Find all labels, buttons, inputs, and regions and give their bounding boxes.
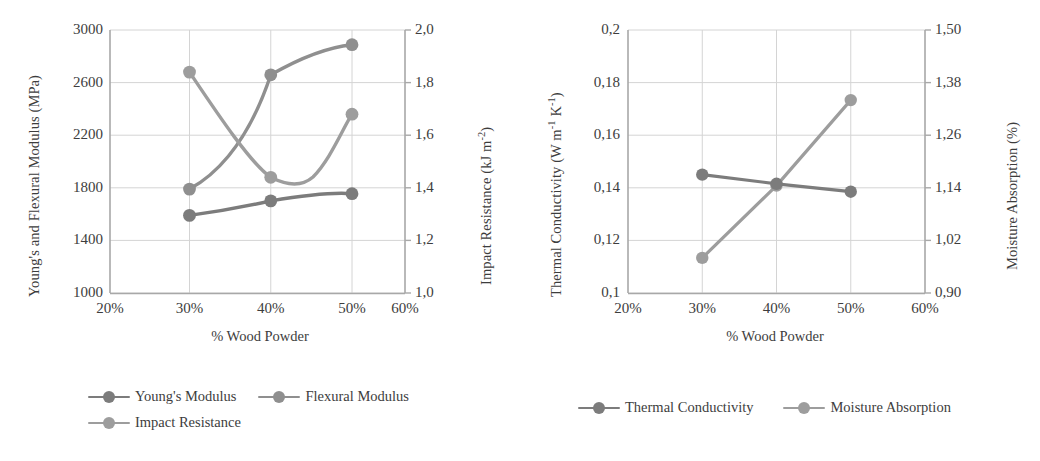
legend-item-flexural-modulus[interactable]: Flexural Modulus: [258, 388, 409, 405]
legend-item-youngs-modulus[interactable]: Young's Modulus: [88, 388, 236, 405]
right-axis-ticks: [925, 30, 931, 293]
y-tick-left: 0,16: [564, 126, 620, 143]
legend-item-impact-resistance[interactable]: Impact Resistance: [88, 414, 241, 431]
y-axis-title-right-text: Impact Resistance (kJ m: [478, 141, 494, 285]
right-axis-ticks: [405, 30, 411, 293]
x-tick: 60%: [375, 300, 435, 317]
line-marker-icon: [88, 391, 130, 403]
legend-label: Thermal Conductivity: [625, 399, 753, 416]
y-tick-right: 1,8: [415, 74, 459, 91]
y-tick-left: 0,2: [564, 21, 620, 38]
y-axis-title-left-superscript-2: -1: [546, 97, 557, 106]
y-axis-title-left: Young's and Flexural Modulus (MPa): [26, 75, 43, 297]
y-axis-title-left: Thermal Conductivity (W m-1 K-1): [546, 92, 565, 297]
y-tick-left: 2200: [45, 126, 103, 143]
y-axis-title-right: Impact Resistance (kJ m-2): [476, 127, 495, 285]
y-tick-right: 1,38: [935, 74, 987, 91]
legend-label: Moisture Absorption: [830, 399, 950, 416]
y-tick-left: 0,14: [564, 179, 620, 196]
legend-item-thermal-conductivity[interactable]: Thermal Conductivity: [578, 399, 753, 416]
mechanical-plot-svg: [0, 0, 520, 330]
x-tick: 40%: [747, 300, 807, 317]
y-tick-right: 1,4: [415, 179, 459, 196]
y-tick-right: 1,6: [415, 126, 459, 143]
y-tick-left: 2600: [45, 74, 103, 91]
thermal-plot-svg: [520, 0, 1040, 330]
legend-label: Flexural Modulus: [305, 388, 409, 405]
y-tick-right: 1,02: [935, 231, 987, 248]
y-axis-title-right: Moisture Absorption (%): [1004, 122, 1021, 270]
y-tick-right: 1,0: [415, 284, 459, 301]
y-tick-left: 1400: [45, 231, 103, 248]
y-axis-title-left-text: Thermal Conductivity (W m: [548, 129, 564, 297]
legend-row: Young's Modulus Flexural Modulus: [88, 388, 431, 405]
dual-chart-figure: 3000 2600 2200 1800 1400 1000 2,0 1,8 1,…: [0, 0, 1040, 461]
y-axis-title-left-superscript: -1: [546, 120, 557, 129]
line-marker-icon: [258, 391, 300, 403]
y-tick-left: 0,1: [564, 284, 620, 301]
y-tick-right: 1,14: [935, 179, 987, 196]
gridlines: [110, 30, 405, 293]
mechanical-legend: Young's Modulus Flexural Modulus Impact …: [88, 388, 431, 440]
y-tick-right: 2,0: [415, 21, 459, 38]
x-tick: 50%: [821, 300, 881, 317]
y-tick-left: 0,12: [564, 231, 620, 248]
x-axis-title: % Wood Powder: [675, 328, 875, 345]
y-tick-right: 0,90: [935, 284, 987, 301]
y-tick-left: 1800: [45, 179, 103, 196]
y-axis-title-right-tail: ): [478, 127, 494, 132]
x-axis-title: % Wood Powder: [160, 328, 360, 345]
x-tick: 20%: [80, 300, 140, 317]
y-axis-title-left-tail: ): [548, 92, 564, 97]
legend-label: Young's Modulus: [135, 388, 236, 405]
y-tick-right: 1,50: [935, 21, 987, 38]
y-axis-title-right-superscript: -2: [476, 132, 487, 141]
thermal-plot-area: 0,2 0,18 0,16 0,14 0,12 0,1 1,50 1,38 1,…: [520, 0, 1040, 330]
thermal-moisture-panel: 0,2 0,18 0,16 0,14 0,12 0,1 1,50 1,38 1,…: [520, 0, 1040, 461]
gridlines: [628, 30, 925, 293]
legend-row: Thermal Conductivity Moisture Absorption: [578, 399, 973, 416]
line-marker-icon: [88, 417, 130, 429]
mechanical-properties-panel: 3000 2600 2200 1800 1400 1000 2,0 1,8 1,…: [0, 0, 520, 461]
x-tick: 60%: [895, 300, 955, 317]
line-marker-icon: [783, 402, 825, 414]
x-tick: 20%: [598, 300, 658, 317]
y-tick-left: 3000: [45, 21, 103, 38]
legend-row: Impact Resistance: [88, 414, 431, 431]
y-tick-right: 1,2: [415, 231, 459, 248]
axis-lines: [110, 30, 405, 294]
legend-label: Impact Resistance: [135, 414, 241, 431]
line-marker-icon: [578, 402, 620, 414]
thermal-legend: Thermal Conductivity Moisture Absorption: [578, 399, 973, 425]
y-tick-left: 1000: [45, 284, 103, 301]
x-tick: 40%: [241, 300, 301, 317]
legend-item-moisture-absorption[interactable]: Moisture Absorption: [783, 399, 950, 416]
y-axis-title-left-mid: K: [548, 106, 564, 120]
x-tick: 30%: [672, 300, 732, 317]
mechanical-plot-area: 3000 2600 2200 1800 1400 1000 2,0 1,8 1,…: [0, 0, 520, 330]
y-tick-left: 0,18: [564, 74, 620, 91]
x-tick: 30%: [160, 300, 220, 317]
y-tick-right: 1,26: [935, 126, 987, 143]
x-tick: 50%: [322, 300, 382, 317]
